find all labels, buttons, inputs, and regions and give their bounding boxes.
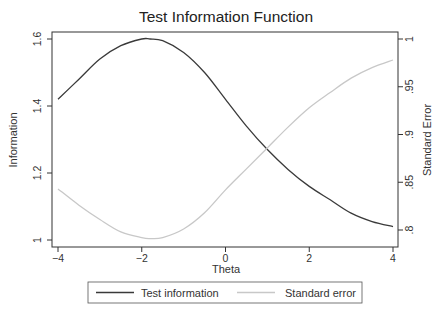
y-tick-label: 1.2 <box>31 166 43 181</box>
y2-axis-title: Standard Error <box>421 104 433 176</box>
legend-label-standard-error: Standard error <box>285 287 356 299</box>
y-tick-label: 1.6 <box>31 32 43 47</box>
y-axis-left: 11.21.41.6 <box>31 32 52 243</box>
series-layer <box>58 38 393 238</box>
y-tick-label: 1 <box>31 237 43 243</box>
y-tick-label: 1.4 <box>31 99 43 114</box>
legend: Test information Standard error <box>88 282 362 303</box>
x-tick-label: 2 <box>306 252 312 264</box>
y-axis-right: .8.85.9.951 <box>398 36 415 234</box>
y2-tick-label: .8 <box>403 225 415 234</box>
series-line-standard-error <box>58 60 393 239</box>
y2-tick-label: .95 <box>403 79 415 94</box>
x-tick-label: 4 <box>390 252 396 264</box>
series-line-test-information <box>58 38 393 226</box>
y2-tick-label: 1 <box>403 36 415 42</box>
chart-title: Test Information Function <box>139 8 313 25</box>
plot-frame <box>52 32 398 247</box>
x-tick-label: −4 <box>52 252 64 264</box>
x-axis: −4−2024 <box>52 247 396 264</box>
legend-label-test-information: Test information <box>141 287 219 299</box>
y2-tick-label: .85 <box>403 175 415 190</box>
chart-canvas: Test Information Function 11.21.41.6 .8.… <box>0 0 446 319</box>
x-axis-title: Theta <box>212 263 241 275</box>
y-axis-title: Information <box>7 112 19 167</box>
y2-tick-label: .9 <box>403 130 415 139</box>
x-tick-label: −2 <box>136 252 148 264</box>
